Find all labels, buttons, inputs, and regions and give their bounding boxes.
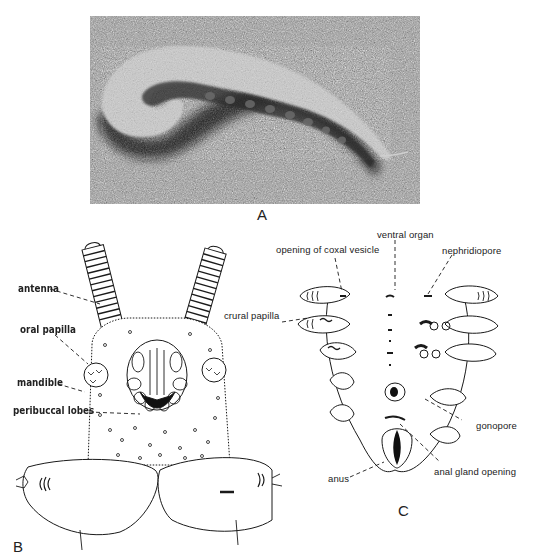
- label-nephridiopore: nephridiopore: [442, 245, 501, 256]
- label-antenna: antenna: [18, 283, 59, 294]
- posterior-drawing-c: [298, 286, 498, 472]
- label-ventral-organ: ventral organ: [377, 229, 434, 240]
- label-opening-of-coxal-vesicle: opening of coxal vesicle: [276, 244, 379, 255]
- label-crural-papilla: crural papilla: [224, 310, 279, 321]
- label-gonopore: gonopore: [476, 420, 517, 431]
- label-oral-papilla: oral papilla: [20, 324, 76, 335]
- panel-label-c: C: [398, 502, 409, 519]
- panel-label-b: B: [13, 538, 23, 555]
- label-anus: anus: [328, 473, 349, 484]
- label-peribuccal-lobes: peribuccal lobes: [13, 405, 94, 416]
- label-mandible: mandible: [17, 377, 63, 388]
- label-anal-gland-opening: anal gland opening: [434, 466, 516, 477]
